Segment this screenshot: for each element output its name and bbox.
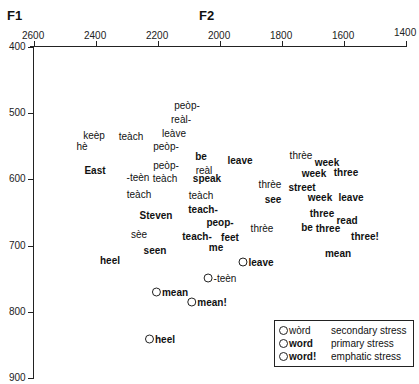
legend-row-primary: word primary stress (279, 338, 313, 349)
legend: wòrd secondary stress word primary stres… (274, 320, 414, 367)
data-point-label: teach- (188, 204, 217, 215)
x-tick-label: 1600 (332, 30, 354, 41)
data-point-label: peòp- (174, 100, 200, 111)
x-tick-label: 1400 (394, 27, 416, 38)
x-tick (406, 41, 407, 46)
y-tick-label: 500 (9, 107, 26, 118)
x-tick-label: 2200 (146, 30, 168, 41)
x-tick (220, 41, 221, 46)
data-point-label: leàve (162, 128, 186, 139)
data-point-label: week (308, 192, 332, 203)
legend-row-secondary: wòrd secondary stress (279, 325, 311, 336)
y-tick (28, 47, 33, 48)
data-point-label: be (301, 222, 313, 233)
data-point-label: three (316, 223, 340, 234)
data-point-label: three! (351, 231, 379, 242)
x-tick (344, 41, 345, 46)
data-point-label: heel (100, 255, 120, 266)
y-tick-label: 400 (9, 41, 26, 52)
data-point-label: be (195, 151, 207, 162)
data-point-label: leave (227, 155, 252, 166)
data-point-label: heel (145, 334, 175, 345)
x-tick (34, 41, 35, 46)
data-point-label: seen (144, 245, 167, 256)
data-point-label: peòp- (153, 141, 179, 152)
x-tick-label: 2600 (22, 30, 44, 41)
data-point-label: sèe (131, 229, 147, 240)
data-point-label: -teèn (127, 172, 150, 183)
data-point-label: teàch (189, 190, 213, 201)
data-point-label: hè (76, 141, 87, 152)
data-point-label: feet (221, 232, 239, 243)
data-point-label: thrèe (290, 150, 313, 161)
data-point-label: East (84, 165, 105, 176)
legend-desc: secondary stress (331, 325, 407, 336)
y-tick-label: 900 (9, 372, 26, 383)
x-tick-label: 2400 (84, 30, 106, 41)
y-tick (28, 179, 33, 180)
y-tick (28, 312, 33, 313)
data-point-label: teàch (119, 131, 143, 142)
legend-sample: wòrd (289, 325, 311, 336)
x-axis-title: F2 (199, 8, 214, 23)
circle-icon (279, 326, 288, 335)
y-axis-line (33, 46, 34, 379)
data-point-label: reàl- (171, 114, 191, 125)
legend-desc: emphatic stress (331, 351, 401, 362)
x-tick (158, 41, 159, 46)
y-tick-label: 600 (9, 173, 26, 184)
data-point-label: peop- (206, 217, 233, 228)
data-point-label: teàch (153, 173, 177, 184)
y-tick-label: 700 (9, 240, 26, 251)
circle-icon (279, 339, 288, 348)
data-point-label: keèp (83, 130, 105, 141)
x-axis-line (30, 46, 407, 47)
data-point-label: three (334, 167, 358, 178)
data-point-label: Steven (140, 210, 173, 221)
data-point-label: teàch (127, 189, 151, 200)
data-point-label: speak (193, 173, 221, 184)
data-point-label: peòp- (153, 160, 179, 171)
x-tick-label: 2000 (208, 30, 230, 41)
y-tick (28, 246, 33, 247)
data-point-label: -teèn (204, 273, 237, 284)
data-point-label: teach- (182, 231, 211, 242)
y-tick (28, 378, 33, 379)
data-point-label: thrèe (259, 179, 282, 190)
data-point-label: three (310, 208, 334, 219)
data-point-label: see (265, 194, 282, 205)
data-point-label: week (302, 168, 326, 179)
legend-sample: word (289, 338, 313, 349)
data-point-label: mean (325, 248, 351, 259)
y-tick (28, 113, 33, 114)
data-point-label: me (209, 242, 223, 253)
y-tick-label: 800 (9, 306, 26, 317)
data-point-label: mean! (187, 297, 226, 308)
legend-sample: word! (289, 351, 316, 362)
x-tick-label: 1800 (270, 30, 292, 41)
data-point-label: thrèe (251, 223, 274, 234)
data-point-label: mean (152, 287, 188, 298)
legend-row-emphatic: word! emphatic stress (279, 351, 316, 362)
y-axis-title: F1 (7, 8, 22, 23)
legend-desc: primary stress (331, 338, 394, 349)
x-tick (282, 41, 283, 46)
x-tick (96, 41, 97, 46)
circle-icon (279, 352, 288, 361)
data-point-label: leave (338, 192, 363, 203)
data-point-label: leave (238, 257, 273, 268)
